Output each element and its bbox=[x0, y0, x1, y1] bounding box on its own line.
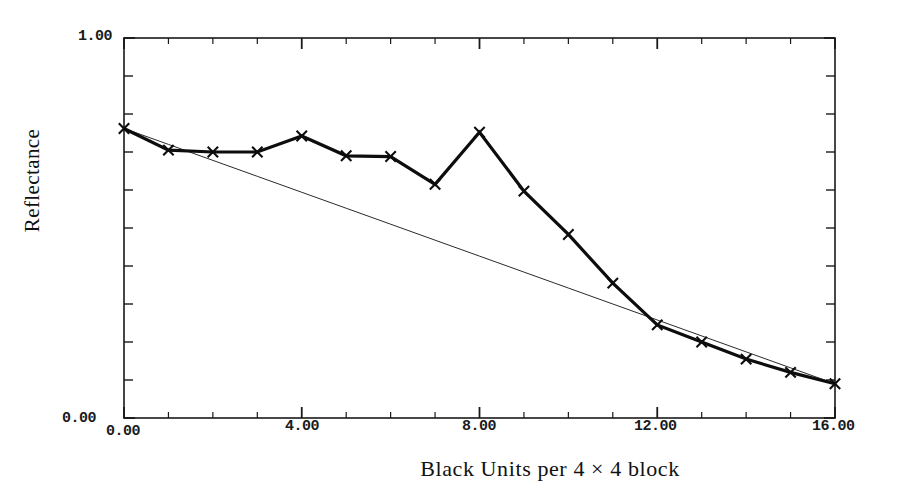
chart-figure: Reflectance Black Units per 4 × 4 block … bbox=[0, 0, 901, 504]
y-tick-label-bottom: 0.00 bbox=[62, 410, 96, 427]
x-tick-label-3: 12.00 bbox=[634, 418, 677, 435]
y-axis-title: Reflectance bbox=[20, 91, 45, 271]
y-tick-label-top: 1.00 bbox=[78, 28, 112, 45]
x-tick-label-1: 4.00 bbox=[285, 418, 319, 435]
axis-frame bbox=[124, 38, 835, 418]
reference-line-series bbox=[124, 128, 835, 383]
x-tick-label-4: 16.00 bbox=[812, 418, 855, 435]
axis-ticks bbox=[124, 38, 835, 418]
x-tick-label-0: 0.00 bbox=[106, 423, 140, 440]
x-tick-label-2: 8.00 bbox=[462, 418, 496, 435]
x-axis-title: Black Units per 4 × 4 block bbox=[300, 456, 800, 482]
